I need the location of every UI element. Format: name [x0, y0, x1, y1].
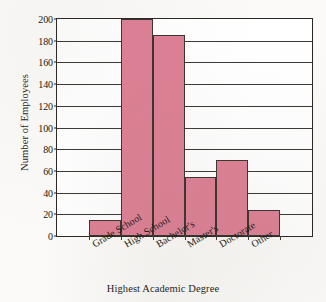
x-axis-tick-labels: Grade SchoolHigh SchoolBachelor'sMaster'…	[56, 240, 313, 282]
bar-chart-figure: Number of Employees 02040608010012014016…	[0, 0, 326, 302]
y-tick-label: 80	[43, 144, 53, 155]
y-tick-label: 200	[38, 14, 53, 25]
y-tick-label: 0	[48, 231, 53, 242]
plot-area: 020406080100120140160180200	[56, 18, 313, 237]
y-tick-label: 180	[38, 35, 53, 46]
y-tick-label: 120	[38, 100, 53, 111]
x-axis-title: Highest Academic Degree	[0, 283, 326, 294]
y-tick-label: 100	[38, 122, 53, 133]
y-tick-label: 20	[43, 209, 53, 220]
y-tick-label: 140	[38, 79, 53, 90]
y-tick-label: 160	[38, 57, 53, 68]
bars-group	[57, 19, 312, 236]
bar	[121, 19, 153, 236]
y-axis-title: Number of Employees	[19, 48, 30, 198]
y-tick-label: 60	[43, 165, 53, 176]
y-tick-label: 40	[43, 187, 53, 198]
bar	[153, 35, 185, 236]
